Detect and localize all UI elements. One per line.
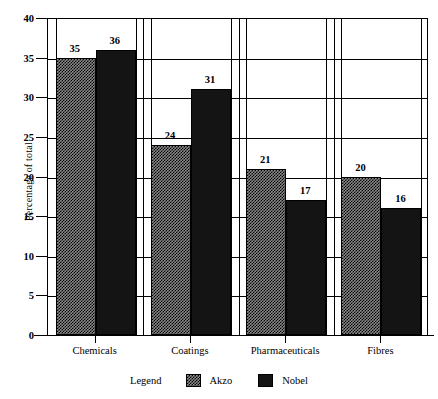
bar-fibres-akzo — [341, 177, 381, 336]
x-tick-mark — [285, 335, 286, 343]
y-tick-mark — [36, 295, 47, 296]
grid-line-vertical — [231, 19, 232, 335]
bar-value-label: 24 — [165, 130, 176, 141]
x-tick-mark — [190, 335, 191, 343]
y-tick-mark — [36, 177, 47, 178]
x-tick-label-fibres: Fibres — [367, 345, 393, 356]
y-tick-label: 30 — [10, 92, 34, 103]
bar-value-label: 35 — [69, 43, 80, 54]
bar-chemicals-akzo — [56, 58, 96, 335]
x-tick-mark — [380, 335, 381, 343]
legend-label-akzo: Akzo — [210, 375, 233, 386]
y-tick-label: 15 — [10, 211, 34, 222]
chart-legend: Legend Akzo Nobel — [0, 370, 438, 390]
bar-chemicals-nobel — [96, 50, 136, 335]
bar-pharmaceuticals-nobel — [286, 200, 326, 335]
bar-coatings-nobel — [191, 89, 231, 335]
legend-label-nobel: Nobel — [282, 375, 308, 386]
y-tick-label: 20 — [10, 171, 34, 182]
legend-swatch-nobel — [258, 374, 273, 387]
legend-title: Legend — [130, 375, 162, 386]
bar-value-label: 36 — [109, 35, 120, 46]
grid-line-vertical — [239, 19, 240, 335]
y-tick-mark — [36, 256, 47, 257]
grid-line-vertical — [421, 19, 422, 335]
bar-coatings-akzo — [151, 145, 191, 335]
y-tick-mark — [36, 18, 47, 19]
legend-swatch-akzo — [186, 374, 201, 387]
y-tick-mark — [36, 58, 47, 59]
y-tick-mark — [36, 216, 47, 217]
bar-value-label: 20 — [355, 162, 366, 173]
y-tick-label: 0 — [10, 330, 34, 341]
bar-value-label: 31 — [205, 74, 216, 85]
legend-item-akzo: Akzo — [186, 374, 233, 387]
x-tick-label-coatings: Coatings — [171, 345, 208, 356]
plot-area — [47, 18, 428, 335]
y-tick-label: 5 — [10, 290, 34, 301]
y-tick-label: 35 — [10, 52, 34, 63]
y-tick-mark — [36, 137, 47, 138]
plot-inner — [48, 19, 427, 335]
y-tick-label: 40 — [10, 13, 34, 24]
bar-value-label: 16 — [395, 193, 406, 204]
x-tick-mark — [95, 335, 96, 343]
legend-item-nobel: Nobel — [258, 374, 308, 387]
bar-value-label: 21 — [260, 154, 271, 165]
grid-line-vertical — [143, 19, 144, 335]
grid-line-vertical — [136, 19, 137, 335]
bar-value-label: 17 — [300, 185, 311, 196]
grid-line-vertical — [326, 19, 327, 335]
grid-line-vertical — [334, 19, 335, 335]
x-tick-label-pharmaceuticals: Pharmaceuticals — [251, 345, 320, 356]
y-tick-mark — [36, 97, 47, 98]
bar-fibres-nobel — [381, 208, 421, 335]
y-tick-label: 25 — [10, 131, 34, 142]
bar-chart: Percentage of total 0510152025303540 Che… — [0, 0, 438, 399]
x-tick-label-chemicals: Chemicals — [72, 345, 116, 356]
y-tick-label: 10 — [10, 250, 34, 261]
bar-pharmaceuticals-akzo — [246, 169, 286, 335]
